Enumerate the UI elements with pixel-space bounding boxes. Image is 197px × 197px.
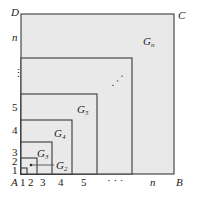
x-label-2: 2	[28, 176, 34, 188]
x-label-3: 3	[40, 176, 46, 188]
y-label-4: 4	[12, 124, 18, 136]
y-label-ellipsis: ⋮	[13, 67, 24, 79]
corner-a: A	[10, 176, 18, 188]
x-label-4: 4	[58, 176, 64, 188]
x-label-5: 5	[81, 176, 87, 188]
x-label-1: 1	[20, 176, 26, 188]
x-label-n: n	[150, 176, 156, 188]
corner-d: D	[10, 6, 19, 18]
nested-squares-diagram: · · · Gn G5 G4 G3 G2 A B C D 1 2 3 4 5 ·…	[0, 0, 197, 197]
x-label-ellipsis: · · ·	[107, 174, 124, 186]
y-label-3: 3	[12, 146, 18, 158]
y-label-5: 5	[12, 101, 18, 113]
y-label-n: n	[12, 31, 18, 43]
corner-b: B	[176, 176, 183, 188]
square-g1	[21, 168, 27, 174]
corner-c: C	[178, 9, 186, 21]
